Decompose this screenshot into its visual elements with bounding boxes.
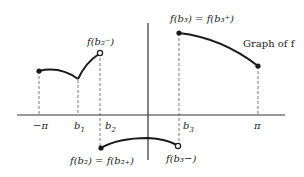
annotation-f-b2-eq: f(b₂) = f(b₂₊) [69,155,134,166]
label-b2: b2 [105,120,116,134]
annotation-graph-of-f: Graph of f [243,38,296,49]
label-neg-pi: −π [33,120,48,131]
annotation-f-b2-minus: f(b₂⁻) [86,36,114,47]
piecewise-function-diagram: −π b1 b2 b3 π f(b₂⁻) f(b₃) = f(b₃⁺) Grap… [0,0,304,177]
curve-segment-2 [78,54,99,79]
curve-segment-3 [101,138,177,148]
point-b2-filled [98,145,103,150]
annotation-f-b3-eq: f(b₃) = f(b₃⁺) [169,13,234,24]
point-b3-left-open [175,143,180,148]
point-b2-left-open [97,50,102,55]
annotation-f-b3-minus: f(b₃−) [165,153,196,164]
curve-segment-1 [39,70,78,79]
label-b1: b1 [74,120,85,134]
label-b3: b3 [183,120,194,134]
point-pi-filled [255,63,260,68]
point-b3-filled [176,30,181,35]
point-neg-pi-filled [36,68,41,73]
label-pi: π [253,120,261,131]
